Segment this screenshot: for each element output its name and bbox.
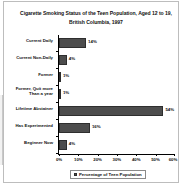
- bar-rows: 14% 4% 1% 1%: [58, 35, 174, 154]
- bar-value-current-daily: 14%: [88, 39, 97, 45]
- chart-page-frame: Cigarette Smoking Status of the Teen Pop…: [3, 1, 179, 183]
- bar-value-has-experimented: 16%: [92, 124, 101, 130]
- bar-former-quit-year[interactable]: [59, 89, 61, 99]
- bar-value-former-quit-year: 1%: [63, 90, 69, 96]
- legend-label-teen-population: Percentage of Teen Population: [79, 172, 142, 178]
- x-tick-mark: [78, 154, 79, 156]
- x-tick-label-40: 40%: [132, 157, 141, 162]
- x-tick-label-20: 20%: [93, 157, 102, 162]
- bar-value-lifetime-abstainer: 54%: [165, 107, 174, 113]
- x-tick-mark: [117, 154, 118, 156]
- x-tick-mark: [59, 154, 60, 156]
- y-axis-label-beginner-now: Beginner Now: [7, 140, 53, 145]
- x-tick-label-30: 30%: [113, 157, 122, 162]
- chart-legend[interactable]: Percentage of Teen Population: [70, 170, 146, 179]
- y-axis-labels: Current Daily Current Non-Daily Former F…: [8, 35, 56, 154]
- bar-lifetime-abstainer[interactable]: [59, 106, 163, 116]
- bar-row: 14%: [58, 35, 174, 52]
- bar-row: 1%: [58, 86, 174, 103]
- bar-former[interactable]: [59, 72, 61, 82]
- y-axis-label-current-non-daily: Current Non-Daily: [7, 55, 53, 60]
- chart-title-line1: Cigarette Smoking Status of the Teen Pop…: [20, 10, 172, 16]
- x-tick-label-10: 10%: [74, 157, 83, 162]
- bar-row: 1%: [58, 69, 174, 86]
- y-axis-label-lifetime-abstainer: Lifetime Abstainer: [7, 106, 53, 111]
- plot-area: 14% 4% 1% 1%: [58, 35, 174, 154]
- x-tick-label-60: 60%: [169, 157, 178, 162]
- chart-container: Cigarette Smoking Status of the Teen Pop…: [8, 4, 182, 183]
- chart-title-line2: British Columbia, 1997: [14, 18, 178, 27]
- legend-swatch-icon: [74, 173, 77, 176]
- chart-title: Cigarette Smoking Status of the Teen Pop…: [14, 9, 178, 27]
- x-tick-label-50: 50%: [151, 157, 160, 162]
- bar-value-current-non-daily: 4%: [69, 56, 75, 62]
- x-tick-mark: [136, 154, 137, 156]
- x-axis-ticks: 0% 10% 20% 30% 40% 50% 60%: [58, 154, 174, 164]
- chart-screenshot: Cigarette Smoking Status of the Teen Pop…: [0, 0, 182, 185]
- bar-has-experimented[interactable]: [59, 123, 90, 133]
- bar-row: 4%: [58, 52, 174, 69]
- y-axis-label-former-quit-year: Former, Quit more Than a year: [7, 86, 53, 96]
- bar-current-non-daily[interactable]: [59, 55, 67, 65]
- x-tick-mark: [156, 154, 157, 156]
- y-axis-label-former: Former: [7, 72, 53, 77]
- bar-value-former: 1%: [63, 73, 69, 79]
- x-tick-mark: [98, 154, 99, 156]
- x-tick-label-0: 0%: [56, 157, 62, 162]
- x-tick-mark: [174, 154, 175, 156]
- bar-row: 16%: [58, 120, 174, 137]
- bar-value-beginner-now: 4%: [69, 141, 75, 147]
- bar-beginner-now[interactable]: [59, 140, 67, 150]
- bar-current-daily[interactable]: [59, 38, 86, 48]
- y-axis-label-has-experimented: Has Experimented: [7, 123, 53, 128]
- bar-row: 4%: [58, 137, 174, 154]
- y-axis-label-current-daily: Current Daily: [7, 38, 53, 43]
- bar-row: 54%: [58, 103, 174, 120]
